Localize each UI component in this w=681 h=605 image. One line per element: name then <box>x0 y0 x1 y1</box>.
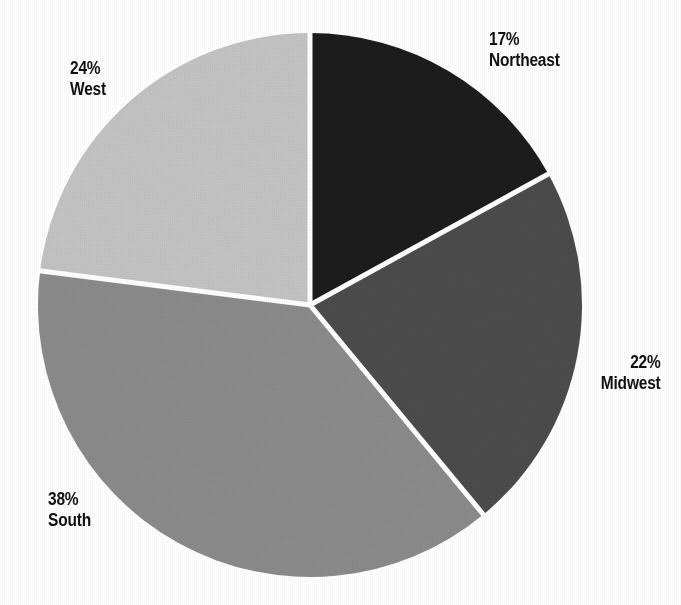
pie-label-south-name: South <box>48 510 91 531</box>
pie-label-northeast-percent: 17% <box>489 29 560 50</box>
pie-label-northeast-name: Northeast <box>489 50 560 71</box>
pie-label-west-percent: 24% <box>70 58 106 79</box>
pie-label-northeast: 17% Northeast <box>489 29 560 71</box>
pie-label-west: 24% West <box>70 58 106 100</box>
pie-label-midwest: 22% Midwest <box>601 352 661 394</box>
pie-label-midwest-percent: 22% <box>601 352 661 373</box>
pie-label-south: 38% South <box>48 489 91 531</box>
pie-label-midwest-name: Midwest <box>601 373 661 394</box>
pie-label-south-percent: 38% <box>48 489 91 510</box>
pie-label-west-name: West <box>70 79 106 100</box>
pie-chart-figure: 17% Northeast 22% Midwest 38% South 24% … <box>0 0 681 605</box>
